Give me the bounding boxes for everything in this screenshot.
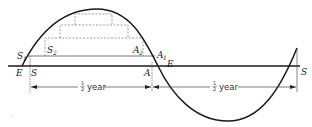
svg-text:year: year (87, 82, 106, 92)
label-s-right: S (301, 67, 307, 77)
svg-text:2: 2 (52, 49, 57, 56)
label-a-mid: A (143, 68, 151, 78)
label-a1: A 1 (156, 50, 167, 61)
svg-text:2: 2 (213, 86, 216, 92)
seasonal-sine-diagram: 1 2 year 1 2 year E S A E S S 1 S 2 A 2 … (0, 0, 312, 127)
svg-text:1: 1 (23, 55, 27, 62)
label-e-left: E (15, 68, 23, 78)
label-s1: S 1 (17, 51, 27, 62)
interval-label-1: 1 2 year (80, 80, 106, 92)
svg-text:1: 1 (163, 54, 167, 61)
interval-label-2: 1 2 year (212, 80, 238, 92)
label-s-left: S (31, 68, 37, 78)
svg-text:2: 2 (138, 49, 143, 56)
label-e-mid: E (166, 59, 174, 69)
svg-text:year: year (219, 82, 238, 92)
label-a2: A 2 (132, 45, 143, 56)
label-s2: S 2 (47, 45, 57, 56)
sine-curve (22, 9, 297, 121)
svg-text:2: 2 (81, 86, 84, 92)
stray-dot (11, 114, 12, 115)
